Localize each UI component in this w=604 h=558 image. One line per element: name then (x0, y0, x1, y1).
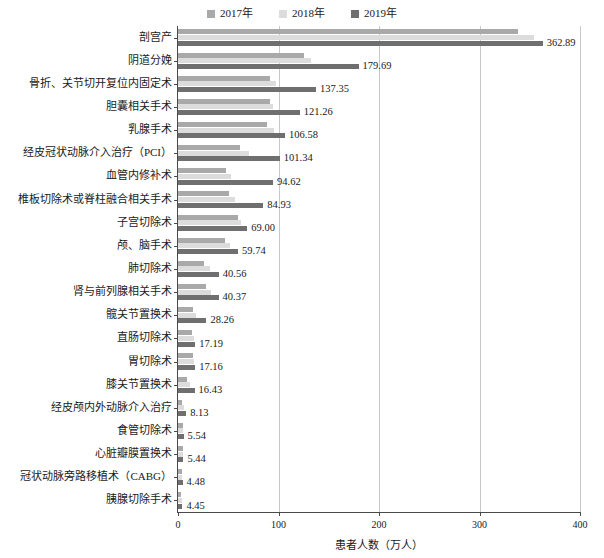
bar-2017 (178, 377, 187, 382)
bar-2017 (178, 29, 518, 34)
bar-row: 心脏瓣膜置换术5.44 (178, 443, 580, 466)
bar-2018 (178, 498, 182, 503)
y-axis-category-label: 经皮冠状动脉介入治疗（PCI） (0, 146, 172, 159)
bar-2019 (178, 249, 238, 254)
bar-row: 冠状动脉旁路移植术（CABG）4.48 (178, 466, 580, 489)
bar-2019 (178, 110, 300, 115)
bar-2017 (178, 145, 240, 150)
y-axis-category-label: 子宫切除术 (0, 216, 172, 229)
y-axis-category-label: 胃切除术 (0, 355, 172, 368)
bar-2019 (178, 434, 184, 439)
y-axis-category-label: 肺切除术 (0, 262, 172, 275)
y-axis-category-label: 乳腺手术 (0, 123, 172, 136)
bar-2018 (178, 382, 190, 387)
x-axis-title: 患者人数（万人） (178, 539, 580, 552)
y-axis-category-label: 颅、脑手术 (0, 239, 172, 252)
bar-2018 (178, 58, 311, 63)
x-tick-mark-100 (279, 512, 280, 516)
legend-swatch-2019 (351, 10, 359, 18)
bar-value-label: 4.48 (187, 476, 205, 487)
x-tick-label-100: 100 (271, 519, 286, 530)
bar-2018 (178, 81, 276, 86)
bar-row: 胃切除术17.16 (178, 350, 580, 373)
bar-2017 (178, 122, 267, 127)
bar-value-label: 121.26 (304, 106, 333, 117)
bar-2018 (178, 35, 534, 40)
bar-value-label: 69.00 (251, 222, 275, 233)
bar-2018 (178, 151, 249, 156)
bar-value-label: 84.93 (267, 199, 291, 210)
bar-value-label: 40.37 (223, 291, 247, 302)
bar-2017 (178, 53, 304, 58)
bar-2017 (178, 469, 182, 474)
legend-item-2017[interactable]: 2017年 (207, 7, 253, 20)
bar-value-label: 16.43 (199, 384, 223, 395)
bar-value-label: 5.54 (188, 430, 206, 441)
bar-2017 (178, 353, 193, 358)
bar-2019 (178, 480, 183, 485)
bar-2017 (178, 284, 206, 289)
y-axis-category-label: 胆囊相关手术 (0, 100, 172, 113)
bar-value-label: 59.74 (242, 245, 266, 256)
bar-row: 经皮冠状动脉介入治疗（PCI）101.34 (178, 142, 580, 165)
bar-row: 食管切除术5.54 (178, 419, 580, 442)
bar-2018 (178, 475, 182, 480)
bar-2017 (178, 307, 193, 312)
bar-row: 经皮颅内外动脉介入治疗8.13 (178, 396, 580, 419)
y-axis-category-label: 髋关节置换术 (0, 308, 172, 321)
y-axis-category-label: 心脏瓣膜置换术 (0, 447, 172, 460)
bar-2018 (178, 197, 235, 202)
bar-2019 (178, 226, 247, 231)
bar-2017 (178, 238, 225, 243)
bar-value-label: 40.56 (223, 268, 247, 279)
bar-value-label: 106.58 (289, 129, 318, 140)
y-axis-category-label: 血管内修补术 (0, 169, 172, 182)
legend-item-2019[interactable]: 2019年 (351, 7, 397, 20)
legend-swatch-2017 (207, 10, 215, 18)
bar-2017 (178, 99, 270, 104)
bar-2019 (178, 342, 195, 347)
bar-2019 (178, 411, 186, 416)
y-axis-category-label: 剖宫产 (0, 31, 172, 44)
bar-2019 (178, 388, 195, 393)
bar-row: 颅、脑手术59.74 (178, 234, 580, 257)
bar-value-label: 5.44 (187, 453, 205, 464)
bar-2018 (178, 243, 230, 248)
bar-row: 肾与前列腺相关手术40.37 (178, 281, 580, 304)
bar-2017 (178, 446, 183, 451)
x-tick-mark-0 (178, 512, 179, 516)
bar-2018 (178, 336, 194, 341)
bar-2019 (178, 64, 359, 69)
bar-value-label: 101.34 (284, 152, 313, 163)
legend-item-2018[interactable]: 2018年 (279, 7, 325, 20)
bar-2017 (178, 215, 238, 220)
bar-2019 (178, 365, 195, 370)
bar-row: 子宫切除术69.00 (178, 211, 580, 234)
bar-2019 (178, 156, 280, 161)
bar-2019 (178, 295, 219, 300)
y-axis-category-label: 阴道分娩 (0, 54, 172, 67)
bar-row: 直肠切除术17.19 (178, 327, 580, 350)
bar-2017 (178, 168, 226, 173)
x-tick-label-300: 300 (472, 519, 487, 530)
bar-row: 肺切除术40.56 (178, 257, 580, 280)
plot-area: 0100200300400 剖宫产362.89阴道分娩179.69骨折、关节切开… (178, 26, 580, 512)
bar-2017 (178, 191, 229, 196)
bar-chart: 2017年 2018年 2019年 0100200300400 剖宫产362.8… (0, 0, 604, 558)
bar-row: 骨折、关节切开复位内固定术137.35 (178, 72, 580, 95)
y-axis-category-label: 椎板切除术或脊柱融合相关手术 (0, 193, 172, 206)
bar-2017 (178, 492, 181, 497)
x-tick-mark-300 (480, 512, 481, 516)
bar-value-label: 362.89 (547, 37, 576, 48)
bar-value-label: 17.16 (199, 361, 223, 372)
bar-row: 椎板切除术或脊柱融合相关手术84.93 (178, 188, 580, 211)
x-tick-label-200: 200 (372, 519, 387, 530)
bar-2017 (178, 76, 270, 81)
y-axis-category-label: 直肠切除术 (0, 331, 172, 344)
bar-row: 阴道分娩179.69 (178, 49, 580, 72)
bar-2018 (178, 359, 194, 364)
bar-row: 血管内修补术94.62 (178, 165, 580, 188)
y-axis-category-label: 膝关节置换术 (0, 378, 172, 391)
bar-2018 (178, 428, 183, 433)
bar-2018 (178, 220, 241, 225)
